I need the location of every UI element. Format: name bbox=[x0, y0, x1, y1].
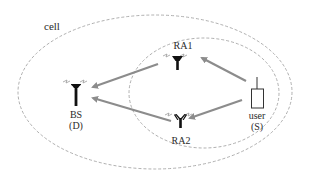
bs-label-role: (D) bbox=[64, 120, 88, 131]
user-label-role: (S) bbox=[243, 121, 271, 132]
cell-label: cell bbox=[44, 21, 60, 31]
user-mobile-phone-icon bbox=[252, 77, 264, 108]
bs-label-name: BS bbox=[64, 109, 88, 120]
signal-icon bbox=[63, 80, 70, 83]
arrow-user-to-ra1 bbox=[202, 58, 246, 81]
user-label-name: user bbox=[243, 110, 271, 121]
arrow-ra1-to-bs bbox=[93, 64, 158, 87]
signal-marks bbox=[63, 54, 192, 116]
bs-antenna-icon bbox=[71, 84, 81, 106]
signal-icon bbox=[165, 113, 172, 116]
signal-icon bbox=[80, 80, 87, 83]
signal-icon bbox=[163, 54, 170, 57]
arrow-user-to-ra2 bbox=[190, 100, 242, 118]
cell-boundary bbox=[18, 15, 292, 169]
ra2-antenna-icon bbox=[174, 114, 187, 128]
ra1-antenna-icon bbox=[172, 56, 183, 70]
ra1-label: RA1 bbox=[172, 41, 194, 51]
user-label: user (S) bbox=[243, 110, 271, 132]
ra2-label: RA2 bbox=[170, 136, 192, 146]
arrows bbox=[93, 58, 246, 121]
arrow-ra2-to-bs bbox=[93, 98, 171, 121]
bs-label: BS (D) bbox=[64, 109, 88, 131]
